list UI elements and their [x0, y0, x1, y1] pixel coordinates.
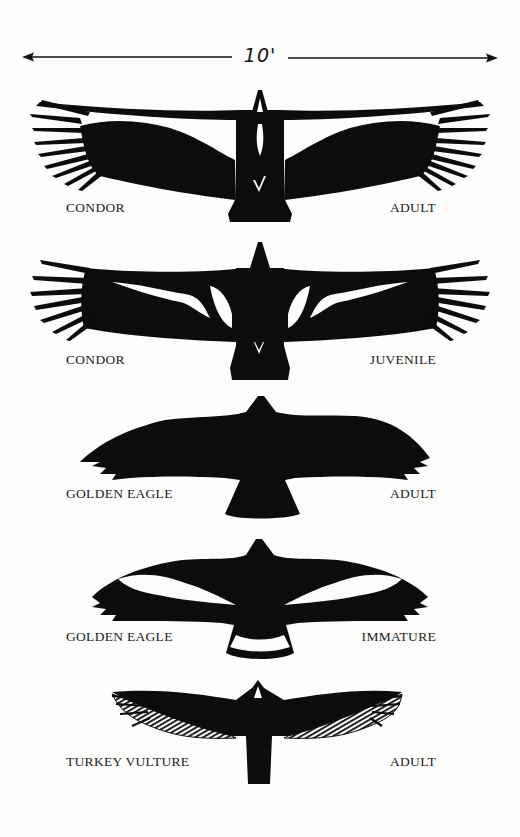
turkey-vulture-adult-silhouette: [0, 678, 520, 793]
species-label: GOLDEN EAGLE: [66, 629, 173, 645]
golden-eagle-immature-silhouette: [0, 535, 520, 675]
panel-condor-juvenile: CONDOR JUVENILE: [0, 238, 520, 386]
bird-silhouette-comparison-figure: 10': [0, 0, 520, 837]
species-label: CONDOR: [66, 352, 125, 368]
age-label: ADULT: [390, 486, 436, 502]
age-label: ADULT: [390, 200, 436, 216]
left-arrow-icon: [22, 53, 232, 62]
age-label: JUVENILE: [370, 352, 436, 368]
species-label: CONDOR: [66, 200, 125, 216]
panel-golden-eagle-immature: GOLDEN EAGLE IMMATURE: [0, 535, 520, 675]
golden-eagle-adult-silhouette: [0, 392, 520, 527]
right-arrow-icon: [288, 54, 498, 63]
panel-golden-eagle-adult: GOLDEN EAGLE ADULT: [0, 392, 520, 527]
species-label: GOLDEN EAGLE: [66, 486, 173, 502]
species-label: TURKEY VULTURE: [66, 754, 189, 770]
panel-condor-adult: CONDOR ADULT: [0, 88, 520, 228]
panel-turkey-vulture-adult: TURKEY VULTURE ADULT: [0, 678, 520, 793]
age-label: ADULT: [390, 754, 436, 770]
scale-label: 10': [235, 44, 285, 66]
age-label: IMMATURE: [362, 629, 436, 645]
